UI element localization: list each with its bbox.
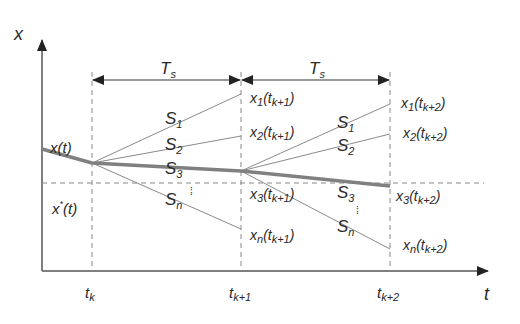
reference-curve-label: x*(t) [51,199,77,217]
tick-tk: tk [85,284,95,303]
ellipsis-1: ⁞ [190,186,193,197]
prediction-x1-tk1: x1(tk+1) [249,90,294,108]
switching-labels-interval-1: S1 S2 S3 Sn ⁞ [165,109,193,211]
prediction-x3-tk1: x3(tk+1) [249,186,294,204]
state-sn-label: Sn [165,190,182,211]
state-s2-label-2: S2 [337,136,354,157]
diagram-canvas: x t Ts Ts tk tk+1 tk+2 x(t) x*(t) S1 S2 … [0,0,520,324]
interval-label-1: Ts [160,59,176,80]
switching-labels-interval-2: S1 S2 S3 Sn ⁞ [337,113,359,238]
tick-tk1: tk+1 [229,284,251,303]
x-axis-label: t [484,284,490,304]
actual-curve-label: x(t) [49,139,72,156]
state-s3-label: S3 [165,159,183,180]
state-s1-label-2: S1 [337,113,354,134]
prediction-xn-tk2: xn(tk+2) [402,237,447,255]
tick-tk2: tk+2 [377,284,399,303]
prediction-x3-tk2: x3(tk+2) [395,188,440,206]
y-axis-label: x [13,24,24,44]
state-sn-label-2: Sn [337,217,354,238]
state-s1-label: S1 [165,109,182,130]
prediction-x2-tk1: x2(tk+1) [249,124,294,142]
prediction-x2-tk2: x2(tk+2) [402,125,447,143]
mpc-switching-state-diagram: x t Ts Ts tk tk+1 tk+2 x(t) x*(t) S1 S2 … [0,0,520,324]
ellipsis-2: ⁞ [356,205,359,216]
prediction-xn-tk1: xn(tk+1) [249,227,294,245]
state-s2-label: S2 [165,135,182,156]
state-s3-label-2: S3 [337,183,355,204]
interval-label-2: Ts [309,59,325,80]
prediction-x1-tk2: x1(tk+2) [400,95,445,113]
predictions-tk2: x1(tk+2) x2(tk+2) x3(tk+2) xn(tk+2) [395,95,447,255]
